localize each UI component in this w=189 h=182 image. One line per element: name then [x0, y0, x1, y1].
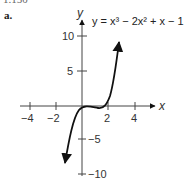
y-tick-label: −10 [88, 168, 107, 180]
y-tick-label: 5 [67, 65, 73, 77]
x-tick-label: 4 [131, 112, 137, 124]
equation-label: y = x³ − 2x² + x − 1 [92, 15, 184, 27]
x-tick-label: −4 [21, 112, 34, 124]
y-axis-label: y [76, 6, 84, 20]
x-axis-label: x [158, 99, 166, 113]
y-tick-label: 10 [62, 30, 74, 42]
y-tick-label: −5 [88, 133, 101, 145]
function-graph: −4 −2 2 4 10 5 −5 −10 x y y = x³ − 2x² +… [0, 0, 189, 182]
x-tick-label: 2 [104, 112, 110, 124]
x-tick-label: −2 [47, 112, 60, 124]
